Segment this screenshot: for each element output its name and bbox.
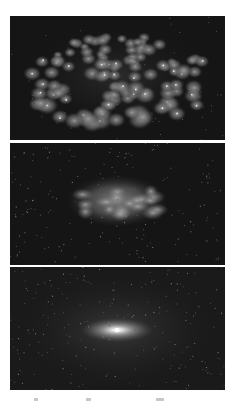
caption-mark xyxy=(34,398,38,401)
caption-row xyxy=(10,398,225,406)
simulation-panel-merging xyxy=(10,143,225,265)
caption-mark xyxy=(156,398,164,401)
simulation-panel-relaxed xyxy=(10,267,225,390)
clumpy-disk-image xyxy=(10,16,225,140)
elliptical-galaxy-image xyxy=(10,267,225,390)
merging-cloud-image xyxy=(10,143,225,265)
simulation-panel-early-clumps xyxy=(10,16,225,140)
caption-mark xyxy=(86,398,91,401)
